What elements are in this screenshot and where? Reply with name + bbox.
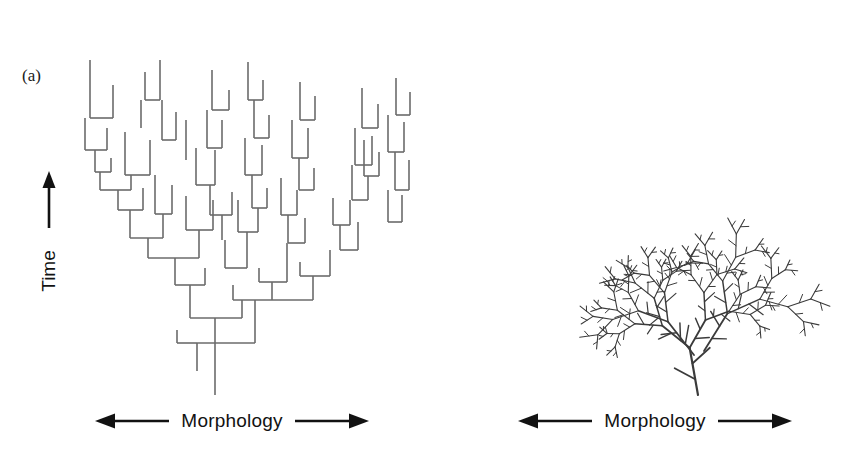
tree-twig bbox=[778, 295, 786, 304]
tree-twig bbox=[635, 295, 639, 305]
tree-twig bbox=[719, 255, 723, 256]
tree-twig bbox=[610, 267, 611, 273]
tree-twig bbox=[724, 284, 732, 292]
tree-twig bbox=[749, 304, 763, 315]
tree-twig bbox=[638, 313, 645, 324]
tree-twig bbox=[725, 255, 732, 265]
tree-twig bbox=[698, 306, 705, 311]
tree-twig bbox=[675, 368, 696, 379]
tree-branch bbox=[704, 275, 717, 293]
tree-branch bbox=[654, 298, 662, 326]
tree-twig bbox=[704, 293, 714, 302]
tree-twig bbox=[620, 308, 629, 314]
tree-twig bbox=[630, 266, 631, 270]
tree-twig bbox=[696, 318, 701, 329]
tree-twig bbox=[700, 235, 701, 240]
tree-twig bbox=[715, 296, 726, 302]
tree-twig bbox=[732, 221, 735, 226]
tree-twig bbox=[736, 312, 739, 322]
tree-twig bbox=[800, 329, 804, 333]
morphology-axis-a: Morphology bbox=[82, 408, 382, 434]
tree-twig bbox=[608, 298, 616, 301]
tree-twig bbox=[686, 246, 688, 251]
tree-twig bbox=[650, 318, 659, 325]
tree-twig bbox=[599, 335, 603, 336]
tree-twig bbox=[603, 278, 607, 281]
morphology-axis-b: Morphology bbox=[505, 408, 805, 434]
tree-twig bbox=[743, 308, 748, 314]
tree-twig bbox=[765, 265, 771, 269]
time-axis-label: Time bbox=[38, 250, 60, 292]
morphology-axis-label-a: Morphology bbox=[181, 410, 282, 432]
tree-twig bbox=[647, 325, 653, 334]
arrow-right-icon bbox=[716, 411, 794, 431]
tree-twig bbox=[706, 270, 713, 271]
tree-twig bbox=[616, 289, 622, 291]
tree-twig bbox=[617, 340, 620, 345]
tree-twig bbox=[699, 252, 707, 255]
tree-twig bbox=[678, 271, 683, 275]
panel-b: (b) Morphology bbox=[430, 0, 861, 450]
evolutionary-tree-figure: (a) Time Morphology (b) bbox=[0, 0, 861, 450]
tree-twig bbox=[659, 260, 661, 264]
tree-twig bbox=[642, 263, 648, 267]
arrow-left-icon bbox=[93, 411, 171, 431]
tree-twig bbox=[636, 274, 641, 279]
tree-twig bbox=[623, 330, 624, 339]
tree-twig bbox=[772, 306, 775, 311]
tree-twig bbox=[764, 276, 768, 285]
tree-twig bbox=[657, 296, 664, 307]
tree-twig bbox=[613, 352, 616, 355]
tree-twig bbox=[712, 251, 713, 255]
tree-twig bbox=[598, 318, 603, 322]
tree-twig bbox=[727, 272, 736, 273]
tree-twig bbox=[685, 325, 688, 343]
tree-branch bbox=[613, 311, 639, 320]
tree-twig bbox=[775, 253, 779, 254]
tree-twig bbox=[673, 256, 676, 262]
tree-twig bbox=[581, 317, 587, 320]
tree-branch bbox=[628, 292, 638, 310]
tree-branch bbox=[638, 311, 668, 322]
tree-twig bbox=[766, 248, 767, 253]
tree-branch bbox=[704, 293, 706, 320]
tree-twig bbox=[711, 311, 720, 326]
tree-twig bbox=[796, 313, 803, 314]
tree-branch bbox=[665, 272, 672, 293]
tree-branch bbox=[665, 293, 668, 322]
tree-twig bbox=[695, 337, 709, 338]
tree-twig bbox=[692, 348, 709, 364]
tree-twig bbox=[729, 240, 736, 246]
tree-twig bbox=[585, 331, 589, 336]
tree-twig bbox=[630, 288, 641, 293]
tree-twig bbox=[667, 266, 670, 269]
tree-twig bbox=[734, 293, 736, 300]
tree-twig bbox=[633, 271, 637, 272]
tree-branch bbox=[668, 322, 694, 355]
arrow-left-icon bbox=[516, 411, 594, 431]
tree-branch bbox=[635, 324, 662, 326]
arrow-up-icon bbox=[38, 170, 60, 230]
panel-a: (a) Time Morphology bbox=[0, 0, 430, 450]
tree-twig bbox=[592, 307, 596, 310]
tree-twig bbox=[666, 293, 676, 302]
tree-twig bbox=[605, 309, 609, 313]
tree-branch bbox=[723, 281, 728, 314]
tree-twig bbox=[607, 350, 611, 351]
tree-twig bbox=[624, 324, 630, 327]
tree-twig bbox=[664, 249, 665, 254]
tree-twig bbox=[757, 332, 761, 335]
morphology-axis-label-b: Morphology bbox=[604, 410, 705, 432]
tree-twig bbox=[598, 300, 599, 304]
fractal-branching-tree bbox=[430, 0, 861, 420]
tree-twig bbox=[700, 277, 702, 286]
time-axis: Time bbox=[26, 170, 72, 320]
arrow-right-icon bbox=[293, 411, 371, 431]
tree-twig bbox=[710, 272, 713, 280]
tree-twig bbox=[645, 248, 647, 252]
tree-twig bbox=[735, 273, 736, 276]
